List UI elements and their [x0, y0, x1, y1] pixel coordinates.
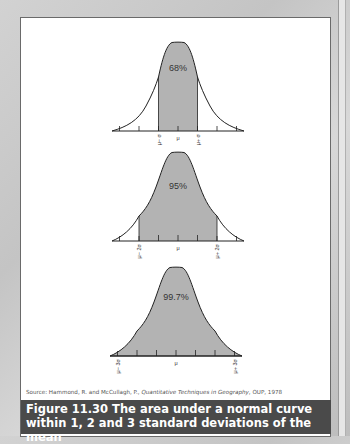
- mu-label: μ: [174, 360, 177, 366]
- right-bound-label: μ+ 3σ: [232, 358, 238, 373]
- sigma-ticks: [120, 126, 237, 131]
- percent-label: 99.7%: [163, 292, 189, 302]
- chart-1sigma: 68% μ μ− σ μ+ σ: [112, 42, 244, 145]
- shaded-area-3sigma: [110, 267, 242, 356]
- left-bound-label: μ− σ: [156, 133, 162, 145]
- percent-label: 95%: [169, 181, 187, 191]
- shaded-area-2sigma: [139, 152, 217, 241]
- mu-label: μ: [176, 135, 179, 141]
- source-prefix: Source: Hammond, R. and McCullagh, P.,: [26, 389, 141, 395]
- right-bound-label: μ+ 2σ: [214, 243, 220, 258]
- sigma-ticks: [120, 235, 237, 241]
- right-bound-label: μ+ σ: [195, 133, 201, 145]
- figure-number: Figure 11.30: [26, 402, 108, 416]
- left-bound-label: μ− 3σ: [115, 358, 121, 373]
- percent-label: 68%: [169, 63, 187, 73]
- left-bound-label: μ− 2σ: [136, 243, 142, 258]
- source-title: Quantitative Techniques in Geography: [141, 389, 248, 395]
- source-citation: Source: Hammond, R. and McCullagh, P., Q…: [26, 389, 326, 395]
- source-suffix: , OUP, 1978: [249, 389, 282, 395]
- mu-label: μ: [176, 245, 179, 251]
- figure-caption: Figure 11.30The area under a normal curv…: [21, 400, 331, 434]
- chart-2sigma: 95% μ μ− 2σ μ+ 2σ: [112, 152, 244, 258]
- chart-3sigma: 99.7% μ μ− 3σ μ+ 3σ: [110, 267, 242, 373]
